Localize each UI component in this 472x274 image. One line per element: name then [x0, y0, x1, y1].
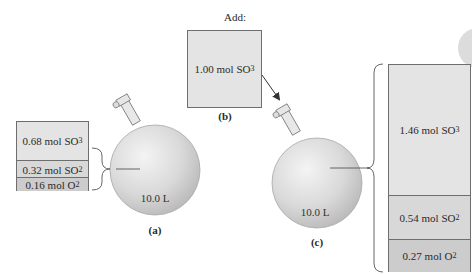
brace-c: [367, 64, 383, 272]
panel-a-so2-text: 0.32 mol SO: [23, 164, 79, 176]
panel-b-heading: Add:: [205, 11, 265, 23]
panel-b-label: (b): [205, 110, 245, 122]
panel-a-so3-text: 0.68 mol SO: [23, 135, 79, 147]
panel-a-composition: 0.68 mol SO3 0.32 mol SO2 0.16 mol O2: [16, 121, 89, 191]
panel-a-o2-cell: 0.16 mol O2: [17, 177, 88, 191]
flask-c-neck-stopcock-icon: [271, 104, 302, 139]
panel-b-box: 1.00 mol SO3: [187, 30, 262, 108]
panel-c-label: (c): [297, 236, 337, 248]
panel-c-so2-text: 0.54 mol SO: [400, 212, 456, 224]
panel-c-so3-cell: 1.46 mol SO3: [389, 65, 470, 195]
panel-c-composition: 1.46 mol SO3 0.54 mol SO2 0.27 mol O2: [388, 64, 471, 272]
panel-a-label: (a): [135, 224, 175, 236]
panel-a-o2-text: 0.16 mol O: [26, 179, 76, 191]
panel-a-so3-cell: 0.68 mol SO3: [17, 122, 88, 160]
panel-b-so3-text: 1.00 mol SO: [195, 63, 251, 75]
panel-c-so2-cell: 0.54 mol SO2: [389, 195, 470, 240]
panel-a-so2-cell: 0.32 mol SO2: [17, 160, 88, 178]
panel-c-volume: 10.0 L: [290, 206, 340, 218]
add-arrow-icon: [262, 75, 279, 99]
edge-circle: [458, 28, 472, 68]
panel-c-so3-text: 1.46 mol SO: [400, 124, 456, 136]
panel-c-o2-text: 0.27 mol O: [403, 250, 453, 262]
panel-c-o2-cell: 0.27 mol O2: [389, 239, 470, 272]
panel-b-so3-cell: 1.00 mol SO3: [188, 31, 261, 107]
brace-a: [92, 148, 110, 190]
panel-a-volume: 10.0 L: [130, 192, 180, 204]
flask-a-neck-stopcock-icon: [111, 94, 142, 129]
